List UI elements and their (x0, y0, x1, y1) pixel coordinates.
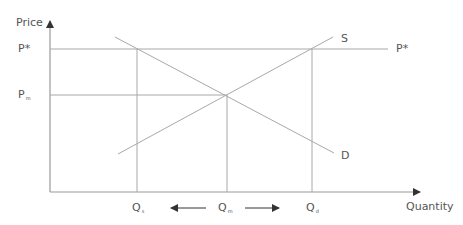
quantity-label-qs: Qs (132, 202, 144, 214)
y-axis-label: Price (16, 17, 43, 28)
quantity-label-qm: Qm (218, 202, 233, 214)
demand-label: D (341, 150, 349, 161)
diagram-canvas (0, 0, 463, 225)
supply-label: S (341, 33, 348, 44)
price-lines (50, 49, 388, 95)
price-label-pm: Pm (18, 89, 31, 101)
quantity-label-qd: Qd (306, 202, 319, 214)
price-label-pstar: P* (18, 43, 30, 54)
x-axis-label: Quantity (406, 201, 454, 212)
axes (50, 21, 420, 192)
supply-demand-diagram: Price Quantity SDP*P*PmQsQmQd (0, 0, 463, 225)
price-label-right-pstar: P* (396, 43, 408, 54)
quantity-lines (137, 49, 312, 192)
